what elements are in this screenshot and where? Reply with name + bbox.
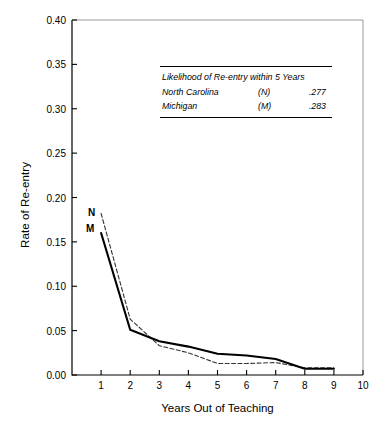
x-axis-tick-label: 6 (235, 380, 259, 391)
legend-row-name: North Carolina (162, 87, 258, 97)
x-axis-tick-label: 1 (89, 380, 113, 391)
legend-row-value: .277 (296, 87, 330, 97)
legend-title: Likelihood of Re-entry within 5 Years (160, 70, 332, 85)
y-axis-title: Rate of Re-entry (10, 110, 40, 300)
legend-row-key: (M) (258, 101, 296, 111)
series-marker-michigan: M (86, 223, 94, 234)
x-axis-tick-label: 2 (118, 380, 142, 391)
x-axis-tick-label: 3 (147, 380, 171, 391)
x-axis-tick-label: 7 (264, 380, 288, 391)
x-axis-tick-label: 5 (206, 380, 230, 391)
x-axis-title: Years Out of Teaching (72, 402, 363, 414)
legend-row-name: Michigan (162, 101, 258, 111)
x-axis-tick-label: 8 (293, 380, 317, 391)
x-axis-tick-label: 10 (351, 380, 375, 391)
y-axis-title-text: Rate of Re-entry (19, 162, 31, 248)
x-axis-tick-label: 9 (322, 380, 346, 391)
chart-figure: 0.000.050.100.150.200.250.300.350.40 123… (0, 0, 388, 439)
legend-row: North Carolina (N) .277 (160, 85, 332, 99)
legend-row: Michigan (M) .283 (160, 99, 332, 113)
legend-row-value: .283 (296, 101, 330, 111)
series-marker-north-carolina: N (88, 207, 95, 218)
chart-legend: Likelihood of Re-entry within 5 Years No… (160, 66, 332, 118)
legend-row-key: (N) (258, 87, 296, 97)
x-axis-tick-label: 4 (176, 380, 200, 391)
